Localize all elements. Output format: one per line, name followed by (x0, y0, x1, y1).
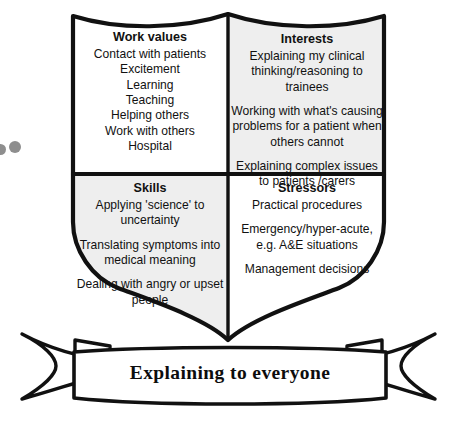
quadrant-skills: Skills Applying 'science' to uncertainty… (74, 181, 226, 308)
quadrant-line: Explaining my clinical thinking/reasonin… (231, 49, 383, 95)
quadrant-heading-interests: Interests (231, 32, 383, 48)
quadrant-line: Excitement (74, 62, 226, 77)
quadrant-line: Translating symptoms into medical meanin… (74, 238, 226, 269)
quadrant-work-values: Work values Contact with patients Excite… (74, 30, 226, 154)
quadrant-line: Working with what's causing problems for… (231, 104, 383, 150)
ribbon-caption: Explaining to everyone (72, 362, 388, 384)
quadrant-interests: Interests Explaining my clinical thinkin… (231, 32, 383, 190)
quadrant-line: Practical procedures (231, 198, 383, 213)
diagram-canvas: Work values Contact with patients Excite… (0, 0, 453, 438)
shield-text-layer: Work values Contact with patients Excite… (0, 0, 453, 438)
quadrant-heading-skills: Skills (74, 181, 226, 197)
quadrant-line: Learning (74, 78, 226, 93)
quadrant-line: Dealing with angry or upset people (74, 277, 226, 308)
quadrant-line: Applying 'science' to uncertainty (74, 198, 226, 229)
quadrant-stressors: Stressors Practical procedures Emergency… (231, 181, 383, 277)
quadrant-line: Helping others (74, 108, 226, 123)
quadrant-line: Hospital (74, 139, 226, 154)
quadrant-heading-work-values: Work values (74, 30, 226, 46)
quadrant-line: Work with others (74, 124, 226, 139)
quadrant-line: Management decisions (231, 262, 383, 277)
quadrant-heading-stressors: Stressors (231, 181, 383, 197)
quadrant-line: Emergency/hyper-acute, e.g. A&E situatio… (231, 222, 383, 253)
quadrant-line: Contact with patients (74, 47, 226, 62)
quadrant-line: Teaching (74, 93, 226, 108)
